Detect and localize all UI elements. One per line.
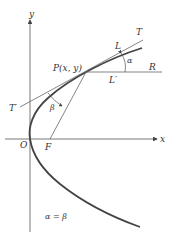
tangent-T-prime-label: T′ <box>9 103 17 113</box>
L-prime-label: L′ <box>108 75 117 85</box>
beta-label: β <box>49 103 55 112</box>
focus-label: F <box>44 142 52 152</box>
R-label: R <box>148 62 156 72</box>
parabola-curve <box>30 48 142 227</box>
tangent-line <box>20 40 143 107</box>
y-axis-label: y <box>28 9 35 19</box>
equation-label: α = β <box>45 212 67 221</box>
alpha-label: α <box>127 56 133 65</box>
origin-label: O <box>20 140 28 150</box>
tangent-T-label: T <box>136 27 143 37</box>
point-P-label: P(x, y) <box>52 63 82 73</box>
parabola-diagram: y x O F P(x, y) T T′ R L L′ α β α = β <box>0 0 179 240</box>
L-label: L <box>114 41 121 51</box>
x-axis-label: x <box>160 134 165 144</box>
